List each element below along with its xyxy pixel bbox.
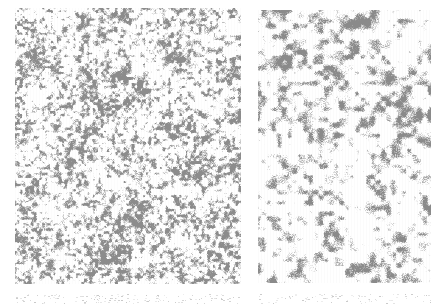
left-bottom-artifact <box>15 294 241 304</box>
left-texture-image <box>15 8 241 284</box>
right-bottom-artifact <box>258 294 431 304</box>
right-bottom-artifact-strip <box>258 294 431 304</box>
left-bottom-artifact-strip <box>15 294 241 304</box>
image-stage <box>0 0 431 307</box>
left-texture-panel <box>15 8 241 284</box>
right-texture-image <box>258 10 431 283</box>
right-texture-panel <box>258 10 431 283</box>
